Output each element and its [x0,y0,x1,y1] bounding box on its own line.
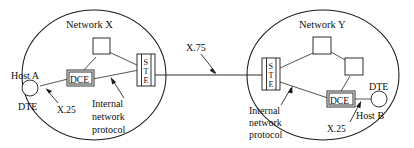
network-y-title: Network Y [299,19,346,30]
x75-leader-line [201,54,216,73]
host-b-label: Host B [356,110,384,121]
internal-protocol-x-label: Internal network protocol [92,98,126,135]
network-x-switch-node-1 [93,38,110,54]
x25-y-label: X.25 [327,124,346,134]
host-b-dte-circle [371,91,387,107]
x25-x-label: X.25 [57,105,76,115]
internal-protocol-y-label: Internal network protocol [249,105,283,140]
host-a-label: Host A [11,70,40,81]
internal-protocol-x-line-1: Internal [92,98,123,109]
link-ste-y-to-switch-1 [280,53,313,68]
link-dte-a-to-dce-x [40,79,68,86]
x75-label: X.75 [186,42,206,53]
link-switch-1-to-ste-x [109,52,139,66]
ste-x-letter-s: S [143,58,148,67]
dte-b-label: DTE [369,81,388,92]
network-x-title: Network X [66,19,113,30]
ste-y-letter-s: S [268,62,273,71]
host-a-dte-circle [22,80,38,96]
ste-x-letter-t: T [143,67,148,76]
internal-protocol-x-line-3: protocol [92,124,126,135]
internal-protocol-y-line-1: Internal [249,105,280,116]
ste-y-letter-e: E [268,80,273,89]
network-y-switch-node-2 [345,58,363,75]
ste-x-letter-e: E [143,76,148,85]
x75-interconnect-group [152,54,266,75]
link-dce-x-to-ste-x [93,70,139,79]
internal-protocol-x-line-2: network [92,111,125,122]
internal-protocol-y-line-2: network [249,117,282,128]
network-y-switch-node-1 [313,37,331,54]
dce-x-label: DCE [70,75,89,85]
x25-x-arrowhead [46,88,53,93]
dte-a-label: DTE [18,101,37,112]
link-switch-2-to-dce-y [340,76,350,93]
dce-y-label: DCE [330,96,349,106]
x25-y-arrowhead [356,101,361,109]
ste-y-letter-t: T [268,71,273,80]
ste-x-stacked-label: S T E [143,58,148,85]
link-ste-y-to-dce-y [280,82,328,98]
diagram-canvas: Network X Host A DTE DCE S T E X.25 Inte… [0,0,414,148]
ste-y-stacked-label: S T E [268,62,273,89]
network-diagram: Network X Host A DTE DCE S T E X.25 Inte… [0,0,414,148]
internal-protocol-y-line-3: protocol [249,129,283,140]
